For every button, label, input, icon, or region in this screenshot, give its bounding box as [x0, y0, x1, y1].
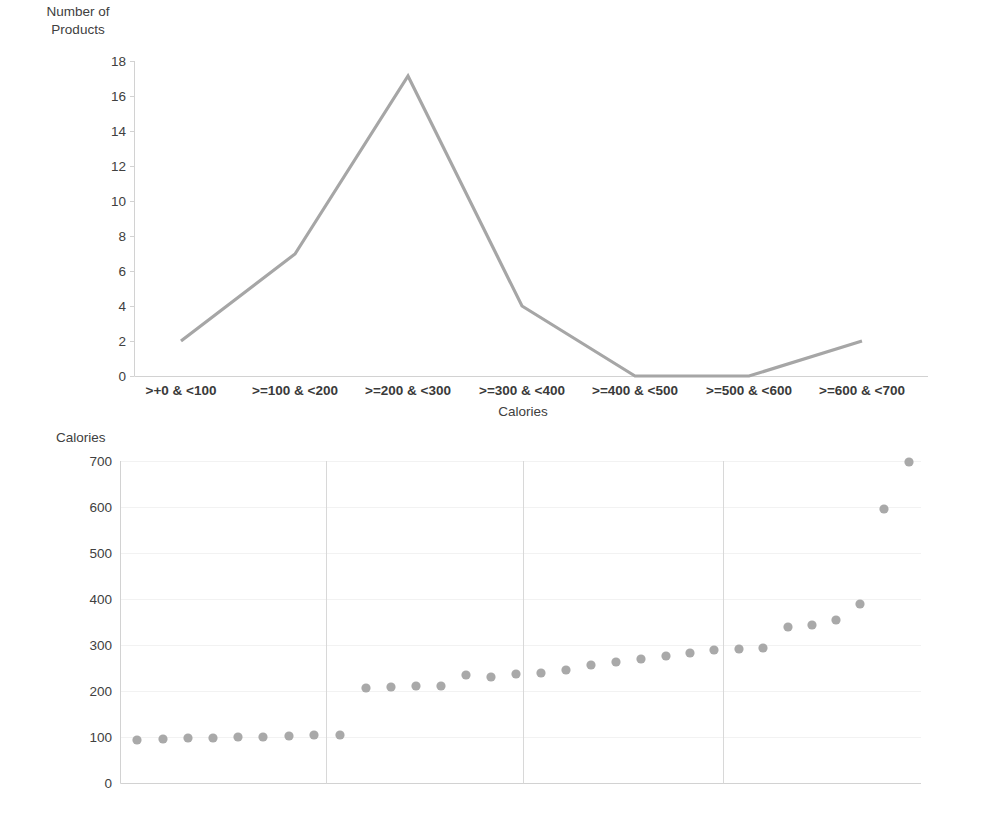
scatter-point: [561, 665, 570, 674]
scatter-ytick-700: 700: [89, 454, 112, 469]
scatter-ytick-200: 200: [89, 684, 112, 699]
scatter-point: [758, 643, 767, 652]
scatter-point: [536, 668, 545, 677]
scatter-point: [233, 732, 242, 741]
scatter-svg: Calories 700 600 500 400 300 200 100: [0, 425, 989, 825]
scatter-point: [709, 645, 718, 654]
scatter-ytick-500: 500: [89, 546, 112, 561]
scatter-ytick-400: 400: [89, 592, 112, 607]
scatter-point: [461, 670, 470, 679]
histogram-chart-panel: Number of Products 18 16 14 12 10 8 6 4 …: [0, 0, 989, 425]
scatter-y-axis-title: Calories: [56, 430, 106, 445]
scatter-point: [208, 733, 217, 742]
histogram-category-6: >=600 & <700: [819, 383, 905, 398]
scatter-point: [335, 730, 344, 739]
scatter-point: [284, 731, 293, 740]
scatter-point: [486, 672, 495, 681]
scatter-point: [783, 622, 792, 631]
histogram-ytick-18: 18: [111, 54, 126, 69]
scatter-y-tick-labels: 700 600 500 400 300 200 100 0: [89, 454, 112, 791]
histogram-ytick-12: 12: [111, 159, 126, 174]
scatter-gridlines: [121, 462, 922, 738]
histogram-svg: Number of Products 18 16 14 12 10 8 6 4 …: [0, 0, 989, 425]
histogram-ytick-0: 0: [118, 369, 126, 384]
histogram-ytick-8: 8: [118, 229, 126, 244]
scatter-point: [361, 683, 370, 692]
scatter-ytick-600: 600: [89, 500, 112, 515]
histogram-y-axis-title-line1: Number of: [46, 4, 109, 19]
scatter-point: [734, 644, 743, 653]
scatter-point: [309, 730, 318, 739]
histogram-y-tick-marks: [130, 62, 135, 377]
scatter-point: [879, 504, 888, 513]
figure-container: Number of Products 18 16 14 12 10 8 6 4 …: [0, 0, 989, 825]
scatter-point: [436, 681, 445, 690]
histogram-category-0: >+0 & <100: [146, 383, 217, 398]
scatter-chart-panel: Calories 700 600 500 400 300 200 100: [0, 425, 989, 825]
histogram-category-5: >=500 & <600: [706, 383, 792, 398]
histogram-ytick-10: 10: [111, 194, 126, 209]
scatter-point: [386, 682, 395, 691]
histogram-ytick-2: 2: [118, 334, 126, 349]
scatter-point: [661, 651, 670, 660]
histogram-ytick-14: 14: [111, 124, 127, 139]
histogram-y-axis-title-line2: Products: [51, 22, 105, 37]
histogram-series-line: [181, 76, 862, 376]
histogram-category-1: >=100 & <200: [252, 383, 338, 398]
scatter-ytick-300: 300: [89, 638, 112, 653]
histogram-y-tick-labels: 18 16 14 12 10 8 6 4 2 0: [111, 54, 127, 384]
scatter-point: [258, 732, 267, 741]
histogram-category-4: >=400 & <500: [592, 383, 678, 398]
scatter-ytick-0: 0: [104, 776, 112, 791]
scatter-point: [685, 648, 694, 657]
scatter-point: [411, 681, 420, 690]
scatter-point: [611, 657, 620, 666]
scatter-point: [158, 734, 167, 743]
histogram-ytick-6: 6: [118, 264, 126, 279]
histogram-ytick-16: 16: [111, 89, 126, 104]
scatter-point: [511, 669, 520, 678]
histogram-x-axis-title: Calories: [498, 404, 548, 419]
histogram-category-2: >=200 & <300: [365, 383, 451, 398]
histogram-ytick-4: 4: [118, 299, 126, 314]
scatter-point: [183, 733, 192, 742]
histogram-category-3: >=300 & <400: [479, 383, 565, 398]
scatter-point: [132, 735, 141, 744]
scatter-point: [636, 654, 645, 663]
histogram-category-labels: >+0 & <100 >=100 & <200 >=200 & <300 >=3…: [146, 383, 905, 398]
scatter-ytick-100: 100: [89, 730, 112, 745]
scatter-point: [904, 457, 913, 466]
scatter-point: [855, 599, 864, 608]
scatter-point: [586, 660, 595, 669]
scatter-point: [831, 615, 840, 624]
scatter-point: [807, 620, 816, 629]
scatter-group-dividers: [327, 461, 724, 784]
